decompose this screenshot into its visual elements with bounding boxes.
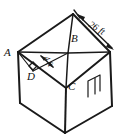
roof-hip-right-eave-to-B [68,52,110,53]
vertex-label-B: B [71,32,78,44]
door-icon [88,75,100,97]
roof-hip-A-to-B [18,52,68,53]
geometry-diagram-canvas: A B C D 26 ft 4 ft [0,0,120,136]
wall-right-bottom-edge [65,106,112,133]
wall-left-edge [18,52,20,103]
wall-front-corner-edge [65,88,66,133]
roof-edge-apex-to-A [18,14,73,52]
vertex-label-D: D [26,70,35,82]
wall-left-bottom-edge [20,103,65,133]
vertex-label-A: A [3,46,11,58]
wall-right-edge [110,52,112,106]
house-roof-diagram-svg: A B C D 26 ft 4 ft [0,0,120,136]
vertex-label-C: C [68,80,76,92]
